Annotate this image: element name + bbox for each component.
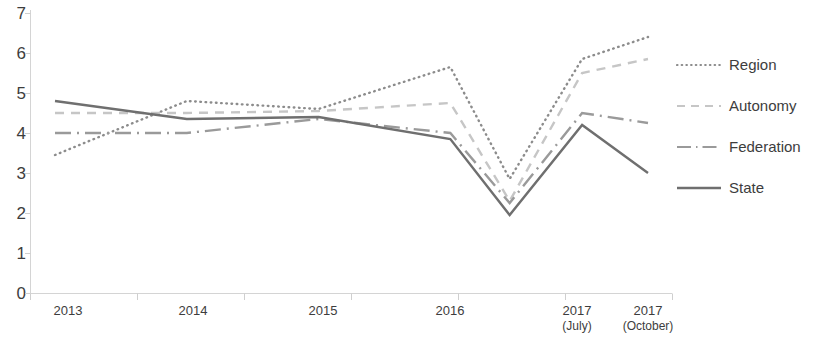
legend-swatch-solid-icon: [676, 181, 722, 195]
legend-swatch-dashdot-icon: [676, 140, 722, 154]
legend-item-region: Region: [676, 44, 825, 85]
y-axis-ticks: [25, 14, 31, 294]
x-tick-label: 2013: [23, 303, 113, 319]
x-tick-label-year: 2016: [436, 303, 465, 318]
x-tick-label: 2014: [148, 303, 238, 319]
x-tick-label-year: 2015: [309, 303, 338, 318]
legend-item-federation: Federation: [676, 126, 825, 167]
series-line-state: [55, 101, 648, 215]
series-line-federation: [55, 113, 648, 203]
x-tick-label: 2017(October): [603, 303, 693, 334]
series-line-autonomy: [55, 59, 648, 201]
x-tick-label-year: 2014: [179, 303, 208, 318]
x-tick-label: 2015: [278, 303, 368, 319]
legend-label: Federation: [729, 138, 801, 155]
legend-item-autonomy: Autonomy: [676, 85, 825, 126]
legend-label: Autonomy: [729, 97, 797, 114]
legend-item-state: State: [676, 167, 825, 208]
x-axis-ticks: [31, 294, 673, 301]
legend-swatch-dotted-icon: [676, 58, 722, 72]
chart-legend: Region Autonomy Federation State: [676, 44, 825, 208]
x-tick-label-year: 2017: [634, 303, 663, 318]
axis-lines: [31, 10, 673, 294]
legend-label: Region: [729, 56, 777, 73]
x-tick-label: 2016: [405, 303, 495, 319]
data-series-layer: [55, 37, 648, 215]
x-tick-label-year: 2013: [54, 303, 83, 318]
line-chart: 7 6 5 4 3 2 1 0: [0, 0, 825, 342]
legend-label: State: [729, 179, 764, 196]
legend-swatch-dashed-icon: [676, 99, 722, 113]
x-tick-label-month: (October): [603, 319, 693, 334]
x-tick-label-year: 2017: [563, 303, 592, 318]
